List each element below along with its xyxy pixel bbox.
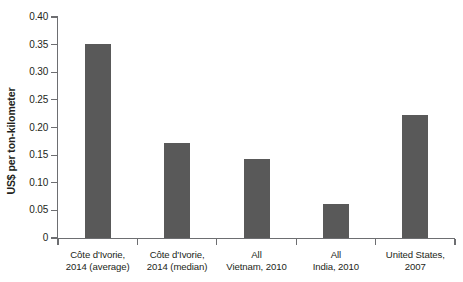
x-axis-category-label: United States,2007 xyxy=(376,249,455,273)
y-axis-tick xyxy=(51,72,57,73)
x-axis-category-label-line1: United States, xyxy=(376,249,455,261)
y-axis-tick-label-wrap: 0.30 xyxy=(0,67,48,77)
y-axis-tick xyxy=(51,237,57,238)
y-axis-tick xyxy=(51,99,57,100)
x-axis-category-label: AllVietnam, 2010 xyxy=(217,249,296,273)
y-axis-tick xyxy=(51,16,57,17)
y-axis-tick-label-wrap: 0.10 xyxy=(0,178,48,188)
y-axis-tick-label: 0.35 xyxy=(2,40,48,50)
y-axis-tick-label: 0.05 xyxy=(2,205,48,215)
x-axis-category-label-line2: 2014 (median) xyxy=(137,261,216,273)
y-axis-tick-label: 0.25 xyxy=(2,95,48,105)
x-axis-category-label-line2: India, 2010 xyxy=(296,261,375,273)
x-axis-tick xyxy=(375,239,376,245)
bar xyxy=(85,44,111,238)
y-axis-tick-label: 0 xyxy=(2,233,48,243)
bar xyxy=(402,115,428,238)
y-axis-tick-label: 0.15 xyxy=(2,150,48,160)
y-axis-tick-label: 0.40 xyxy=(2,12,48,22)
y-axis-tick xyxy=(51,44,57,45)
plot-area xyxy=(58,17,455,238)
y-axis-tick-label: 0.20 xyxy=(2,123,48,133)
x-axis-tick xyxy=(137,239,138,245)
y-axis-tick xyxy=(51,210,57,211)
x-axis-category-label-line1: All xyxy=(296,249,375,261)
x-axis-category-label-line2: 2007 xyxy=(376,261,455,273)
y-axis-tick xyxy=(51,182,57,183)
y-axis-tick-label: 0.30 xyxy=(2,67,48,77)
y-axis-tick-label-wrap: 0.05 xyxy=(0,205,48,215)
x-axis-tick xyxy=(296,239,297,245)
x-axis-category-label: AllIndia, 2010 xyxy=(296,249,375,273)
y-axis-tick-label-wrap: 0.25 xyxy=(0,95,48,105)
y-axis-tick xyxy=(51,127,57,128)
x-axis-category-label-line2: Vietnam, 2010 xyxy=(217,261,296,273)
x-axis-category-label-line1: All xyxy=(217,249,296,261)
x-axis-tick xyxy=(454,239,455,245)
x-axis-tick xyxy=(216,239,217,245)
x-axis-tick xyxy=(57,239,58,245)
y-axis-tick-label: 0.10 xyxy=(2,178,48,188)
x-axis-category-label-line2: 2014 (average) xyxy=(58,261,137,273)
y-axis-tick-label-wrap: 0.20 xyxy=(0,123,48,133)
y-axis-tick xyxy=(51,155,57,156)
y-axis-tick-label-wrap: 0.35 xyxy=(0,40,48,50)
x-axis-line xyxy=(57,238,455,239)
y-axis-tick-label-wrap: 0 xyxy=(0,233,48,243)
bar-chart: US$ per ton-kilometer 0.400.350.300.250.… xyxy=(0,0,463,282)
x-axis-category-label-line1: Côte d'Ivorie, xyxy=(58,249,137,261)
x-axis-category-label: Côte d'Ivorie,2014 (average) xyxy=(58,249,137,273)
bar xyxy=(164,143,190,238)
y-axis-tick-label-wrap: 0.15 xyxy=(0,150,48,160)
y-axis-tick-label-wrap: 0.40 xyxy=(0,12,48,22)
x-axis-category-label-line1: Côte d'Ivorie, xyxy=(137,249,216,261)
x-axis-category-label: Côte d'Ivorie,2014 (median) xyxy=(137,249,216,273)
bar xyxy=(244,159,270,238)
bar xyxy=(323,204,349,238)
